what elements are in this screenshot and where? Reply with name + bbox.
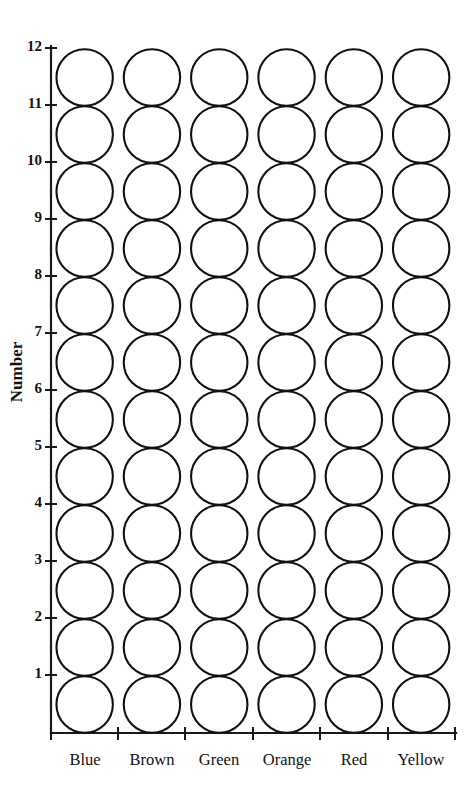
unit-circle (56, 505, 112, 561)
y-tick-label: 12 (27, 38, 42, 54)
unit-circle (393, 676, 449, 732)
unit-circle (258, 49, 314, 105)
unit-circle (124, 448, 180, 504)
unit-circle (124, 676, 180, 732)
unit-circle (393, 334, 449, 390)
unit-circle (191, 334, 247, 390)
y-tick-label: 3 (35, 551, 43, 567)
unit-circle (124, 505, 180, 561)
plot-canvas: 12 11 10 9 8 7 6 5 4 3 2 1 Numb (0, 0, 467, 795)
unit-circle (191, 676, 247, 732)
unit-circle (258, 676, 314, 732)
unit-circle (56, 391, 112, 447)
unit-circle (124, 163, 180, 219)
unit-circle (124, 391, 180, 447)
unit-circle (124, 619, 180, 675)
unit-circle (191, 619, 247, 675)
unit-circle (56, 334, 112, 390)
unit-circle (393, 49, 449, 105)
unit-circle (326, 163, 382, 219)
x-tick-label-green: Green (199, 750, 239, 769)
unit-circle (393, 448, 449, 504)
unit-circle (124, 277, 180, 333)
y-tick-label: 8 (35, 266, 43, 282)
unit-circle (258, 334, 314, 390)
unit-circle (124, 106, 180, 162)
unit-circle (326, 106, 382, 162)
unit-circle (393, 505, 449, 561)
unit-circle (258, 106, 314, 162)
unit-circle (56, 448, 112, 504)
unit-circle (326, 505, 382, 561)
unit-circle (56, 277, 112, 333)
unit-circle (393, 619, 449, 675)
unit-circle (124, 49, 180, 105)
unit-circle (56, 676, 112, 732)
unit-circle (393, 277, 449, 333)
unit-circle (326, 334, 382, 390)
unit-circle (124, 220, 180, 276)
unit-circle (258, 163, 314, 219)
y-tick-label: 1 (35, 665, 43, 681)
unit-circle (326, 448, 382, 504)
unit-circle (191, 163, 247, 219)
unit-circle (191, 391, 247, 447)
dot-plot-chart: 12 11 10 9 8 7 6 5 4 3 2 1 Numb (0, 0, 467, 795)
unit-circle (258, 562, 314, 618)
unit-circle (191, 277, 247, 333)
unit-circle (124, 334, 180, 390)
y-axis-title: Number (7, 341, 26, 402)
unit-circle (56, 562, 112, 618)
unit-circle (393, 391, 449, 447)
unit-circle (393, 106, 449, 162)
unit-circle (393, 163, 449, 219)
unit-circle (191, 106, 247, 162)
x-tick-label-red: Red (341, 750, 368, 769)
x-tick-label-orange: Orange (263, 750, 312, 769)
unit-circle (56, 220, 112, 276)
unit-circle (191, 49, 247, 105)
x-tick-label-brown: Brown (130, 750, 175, 769)
y-tick-label: 9 (35, 209, 43, 225)
unit-circle (191, 448, 247, 504)
unit-circle (258, 220, 314, 276)
x-tick-label-yellow: Yellow (398, 750, 445, 769)
y-tick-label: 4 (35, 494, 43, 510)
unit-circle (56, 163, 112, 219)
unit-circle (326, 676, 382, 732)
unit-circle (258, 448, 314, 504)
unit-circle (56, 106, 112, 162)
unit-circle (258, 619, 314, 675)
unit-circle (191, 220, 247, 276)
unit-circle (258, 391, 314, 447)
unit-circle (258, 277, 314, 333)
unit-circle (56, 619, 112, 675)
unit-circle (191, 505, 247, 561)
unit-circle (393, 562, 449, 618)
y-tick-label: 7 (35, 323, 43, 339)
y-tick-label: 10 (27, 152, 42, 168)
y-tick-label: 2 (35, 608, 43, 624)
unit-circle (191, 562, 247, 618)
unit-circle (326, 49, 382, 105)
unit-circle (326, 277, 382, 333)
unit-circle (326, 562, 382, 618)
unit-circle (56, 49, 112, 105)
y-tick-label: 5 (35, 437, 43, 453)
unit-circle (258, 505, 314, 561)
unit-circle (326, 391, 382, 447)
unit-circle (393, 220, 449, 276)
y-tick-label: 6 (35, 380, 43, 396)
unit-circle (124, 562, 180, 618)
unit-circle (326, 220, 382, 276)
y-tick-label: 11 (28, 95, 42, 111)
unit-circle (326, 619, 382, 675)
x-tick-label-blue: Blue (69, 750, 100, 769)
